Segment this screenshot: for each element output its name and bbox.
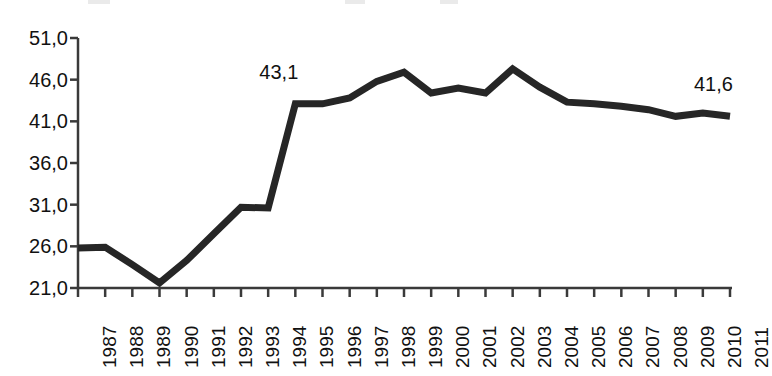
x-axis-tick-label: 2008 <box>671 302 690 368</box>
x-axis-tick-label: 2009 <box>698 302 717 368</box>
x-axis-tick-label: 1994 <box>290 302 309 368</box>
data-point-label: 41,6 <box>694 74 733 94</box>
x-axis-tick-label: 2007 <box>643 302 662 368</box>
x-axis-tick-label: 1989 <box>154 302 173 368</box>
x-axis-tick-label: 2003 <box>535 302 554 368</box>
x-axis-tick-label: 2001 <box>480 302 499 368</box>
x-axis-tick-label: 2011 <box>752 302 771 368</box>
data-point-label: 43,1 <box>259 62 298 82</box>
x-axis-tick-label: 2002 <box>508 302 527 368</box>
x-axis-tick-label: 1987 <box>100 302 119 368</box>
x-axis-tick-label: 1996 <box>345 302 364 368</box>
x-axis-tick-label: 2010 <box>725 302 744 368</box>
x-axis-tick-label: 1992 <box>236 302 255 368</box>
x-axis-tick-label: 2006 <box>616 302 635 368</box>
x-axis-tick-label: 1999 <box>426 302 445 368</box>
x-axis-tick-label: 1990 <box>182 302 201 368</box>
x-axis-tick-label: 1997 <box>372 302 391 368</box>
x-axis-tick-label: 2000 <box>453 302 472 368</box>
x-axis-tick-label: 1998 <box>399 302 418 368</box>
x-axis-tick-label: 2004 <box>562 302 581 368</box>
x-axis-tick-label: 1988 <box>127 302 146 368</box>
x-axis-tick-label: 2005 <box>589 302 608 368</box>
x-axis-tick-label: 1991 <box>209 302 228 368</box>
x-axis-tick-label: 1993 <box>263 302 282 368</box>
x-axis-tick-label: 1995 <box>317 302 336 368</box>
